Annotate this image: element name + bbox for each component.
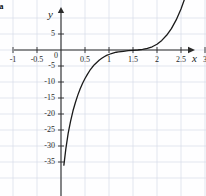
gridlines <box>0 0 206 196</box>
x-tick-label: 2.5 <box>176 55 186 64</box>
x-tick-label: 2 <box>155 55 159 64</box>
x-tick-label: -0.5 <box>31 55 44 64</box>
x-tick-label: 3 <box>203 55 206 64</box>
y-tick-label: -20 <box>44 109 55 118</box>
y-tick-label: -15 <box>44 93 55 102</box>
origin-label: 0 <box>54 51 58 60</box>
y-tick-label: -25 <box>44 125 55 134</box>
x-tick-label: 0.5 <box>80 55 90 64</box>
y-axis-arrow <box>58 7 64 13</box>
x-tick-label: 1 <box>107 55 111 64</box>
y-tick-label: -35 <box>44 157 55 166</box>
coordinate-plot <box>0 0 206 196</box>
function-curve <box>64 0 191 165</box>
x-tick-label: 1.5 <box>128 55 138 64</box>
x-axis-label: x <box>192 52 197 64</box>
x-tick-label: -1 <box>10 55 17 64</box>
y-tick-label: 5 <box>51 29 55 38</box>
graph-figure: a -1-0.500.511.522.535-5-10-15-20-25-30-… <box>0 0 206 196</box>
y-tick-label: -5 <box>48 61 55 70</box>
y-tick-label: -10 <box>44 77 55 86</box>
y-axis-label: y <box>48 8 53 20</box>
y-tick-label: -30 <box>44 141 55 150</box>
axes <box>14 7 195 196</box>
